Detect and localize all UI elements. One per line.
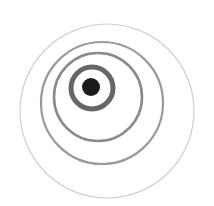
rings-svg [0, 0, 214, 206]
concentric-rings-graphic [0, 0, 214, 206]
outer-ring [20, 24, 194, 198]
ring-4 [41, 42, 163, 164]
center-dot [82, 78, 100, 96]
